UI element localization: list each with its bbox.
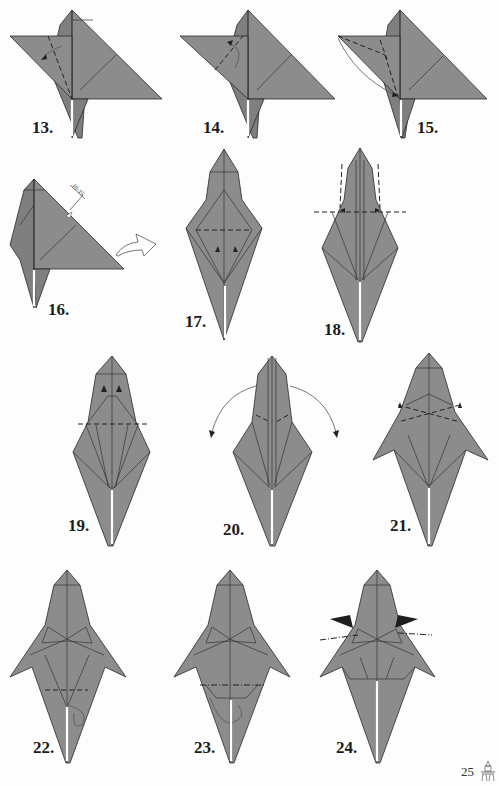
push-arrowhead-left [330, 615, 353, 628]
step-20-diagram: 20. [200, 350, 350, 550]
step-label: 16. [48, 300, 69, 320]
step-18-diagram: 18. [310, 140, 420, 355]
step-label: 17. [185, 312, 206, 332]
step-14-diagram: 14. [175, 0, 345, 140]
step-label: 24. [336, 738, 357, 758]
step-label: 21. [390, 516, 411, 536]
measurement-marker: 10-15 [66, 182, 85, 218]
turn-over-arrow [116, 234, 156, 256]
step-label: 15. [417, 118, 438, 138]
origami-figure-logo-icon [480, 760, 496, 782]
step-24-diagram: 24. [320, 555, 460, 780]
step-label: 13. [32, 118, 53, 138]
step-21-diagram: 21. [340, 350, 499, 550]
measurement-text: 10-15 [71, 182, 85, 196]
step-label: 23. [194, 738, 215, 758]
step-label: 14. [203, 118, 224, 138]
step-22-figure [0, 555, 140, 780]
push-arrowhead-right [395, 615, 418, 628]
step-label: 22. [33, 738, 54, 758]
step-16-figure: 10-15 [0, 170, 170, 320]
page-number: 25 [461, 764, 474, 780]
step-13-figure [0, 0, 170, 140]
step-label: 19. [68, 516, 89, 536]
step-23-figure [170, 555, 310, 780]
step-23-diagram: 23. [170, 555, 310, 780]
step-16-diagram: 10-15 16. [0, 170, 170, 320]
step-15-diagram: 15. [335, 0, 499, 140]
step-17-diagram: 17. [180, 140, 280, 350]
step-14-figure [175, 0, 345, 140]
step-label: 18. [324, 320, 345, 340]
step-19-diagram: 19. [60, 350, 170, 550]
instruction-page: 13. 14. [0, 0, 499, 785]
step-21-figure [340, 350, 499, 550]
step-13-diagram: 13. [0, 0, 170, 140]
step-22-diagram: 22. [0, 555, 140, 780]
step-label: 20. [223, 520, 244, 540]
